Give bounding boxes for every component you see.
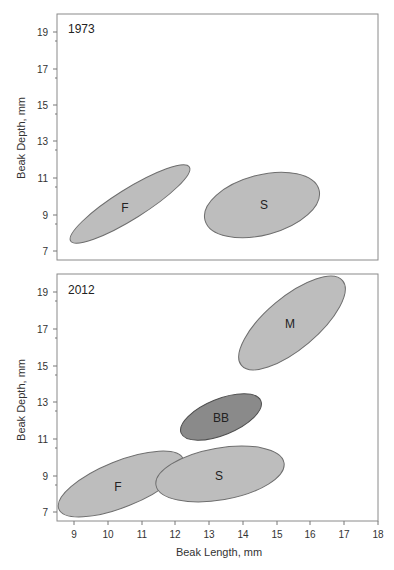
ytick-13: 13 bbox=[37, 136, 49, 147]
ytick-7: 7 bbox=[42, 246, 48, 257]
x-tick-labels: 9 10 11 12 13 14 15 16 17 18 bbox=[71, 529, 384, 540]
xtick-16: 16 bbox=[304, 529, 316, 540]
xtick-17: 17 bbox=[338, 529, 350, 540]
panel-2012: 19 17 15 13 11 9 7 9 10 11 12 13 bbox=[15, 261, 384, 558]
chart-figure: 19 17 15 13 11 9 7 Beak Depth, mm 1973 F… bbox=[0, 0, 394, 570]
ellipse-label-F-2012: F bbox=[114, 480, 121, 494]
ellipse-label-S-1973: S bbox=[260, 198, 268, 212]
xtick-10: 10 bbox=[102, 529, 114, 540]
panel-label-1973: 1973 bbox=[68, 22, 95, 36]
y-tick-labels-top: 19 17 15 13 11 9 7 bbox=[37, 27, 49, 257]
panel-label-2012: 2012 bbox=[68, 283, 95, 297]
ytick-13: 13 bbox=[37, 397, 49, 408]
x-ticks bbox=[74, 521, 378, 525]
ellipse-label-S-2012: S bbox=[215, 469, 223, 483]
ytick-15: 15 bbox=[37, 361, 49, 372]
ytick-9: 9 bbox=[42, 210, 48, 221]
xtick-11: 11 bbox=[137, 529, 148, 540]
ellipse-label-F-1973: F bbox=[121, 201, 128, 215]
ytick-19: 19 bbox=[37, 287, 49, 298]
xtick-15: 15 bbox=[271, 529, 283, 540]
y-ticks-top bbox=[53, 32, 57, 251]
ytick-17: 17 bbox=[37, 64, 49, 75]
ytick-19: 19 bbox=[37, 27, 49, 38]
ytick-15: 15 bbox=[37, 100, 49, 111]
panel-1973: 19 17 15 13 11 9 7 Beak Depth, mm 1973 F… bbox=[15, 14, 378, 260]
xtick-12: 12 bbox=[169, 529, 181, 540]
ytick-17: 17 bbox=[37, 324, 49, 335]
x-axis-title: Beak Length, mm bbox=[176, 546, 262, 558]
ytick-7: 7 bbox=[42, 507, 48, 518]
xtick-13: 13 bbox=[203, 529, 215, 540]
xtick-14: 14 bbox=[237, 529, 249, 540]
xtick-9: 9 bbox=[71, 529, 77, 540]
xtick-18: 18 bbox=[372, 529, 384, 540]
ytick-11: 11 bbox=[38, 173, 49, 184]
y-tick-labels-bottom: 19 17 15 13 11 9 7 bbox=[37, 287, 49, 518]
ytick-9: 9 bbox=[42, 471, 48, 482]
ellipse-label-M-2012: M bbox=[285, 317, 295, 331]
y-axis-title-top: Beak Depth, mm bbox=[15, 97, 27, 179]
ellipse-label-BB-2012: BB bbox=[213, 411, 229, 425]
y-ticks-bottom bbox=[53, 292, 57, 512]
ytick-11: 11 bbox=[38, 434, 49, 445]
y-axis-title-bottom: Beak Depth, mm bbox=[15, 359, 27, 441]
